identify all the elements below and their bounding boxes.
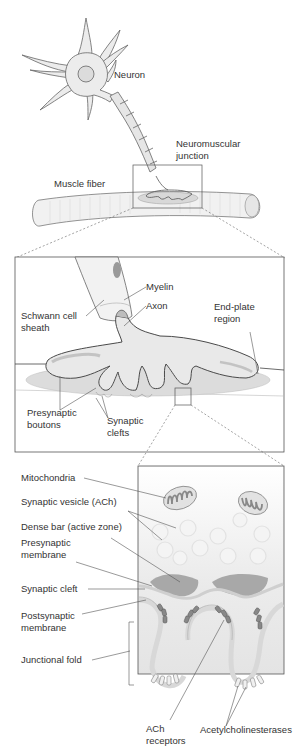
label-schwann-line2: sheath <box>21 322 50 334</box>
label-presyn-line2: membrane <box>21 549 66 561</box>
label-dense-bar: Dense bar (active zone) <box>21 521 122 533</box>
label-muscle-fiber: Muscle fiber <box>54 178 105 190</box>
label-postsyn-line2: membrane <box>21 622 66 634</box>
label-neuron: Neuron <box>114 69 145 81</box>
label-schwann-line1: Schwann cell <box>21 310 77 322</box>
label-postsyn-line1: Postsynaptic <box>21 610 75 622</box>
muscle-fiber-illustration <box>33 165 260 226</box>
neuron-illustration <box>22 18 157 172</box>
label-nmj-line1: Neuromuscular <box>176 138 240 150</box>
label-acetylcholinesterases: Acetylcholinesterases <box>200 724 292 736</box>
label-ach-line2: receptors <box>146 735 186 747</box>
label-clefts-line2: clefts <box>107 427 129 439</box>
label-clefts-line1: Synaptic <box>107 415 143 427</box>
nmj-diagram <box>0 0 300 752</box>
label-boutons-line1: Presynaptic <box>27 407 77 419</box>
label-axon: Axon <box>146 300 168 312</box>
label-synaptic-cleft: Synaptic cleft <box>21 583 78 595</box>
label-myelin: Myelin <box>146 281 173 293</box>
label-endplate-line2: region <box>214 313 240 325</box>
label-boutons-line2: boutons <box>27 419 61 431</box>
label-junctional-fold: Junctional fold <box>21 654 82 666</box>
label-nmj-line2: junction <box>176 150 209 162</box>
label-mitochondria: Mitochondria <box>21 472 75 484</box>
label-endplate-line1: End-plate <box>214 301 255 313</box>
label-ach-line1: ACh <box>146 723 164 735</box>
label-presyn-line1: Presynaptic <box>21 537 71 549</box>
label-synaptic-vesicle: Synaptic vesicle (ACh) <box>21 496 117 508</box>
